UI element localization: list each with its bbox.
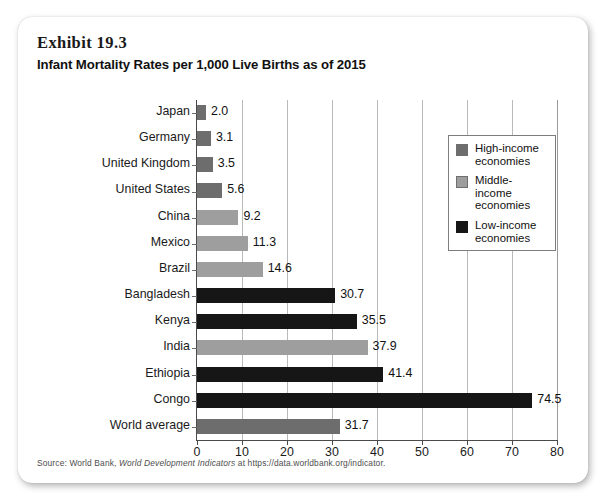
source-publication: World Development Indicators <box>119 458 235 468</box>
category-label: United States <box>22 181 190 198</box>
exhibit-card: Exhibit 19.3 Infant Mortality Rates per … <box>18 17 588 483</box>
bar-row: Brazil14.6 <box>197 257 557 283</box>
bar <box>197 236 248 251</box>
bar-row: Ethiopia41.4 <box>197 362 557 388</box>
legend-item-low-income: Low-income economies <box>456 219 548 244</box>
bar-chart: Japan2.0Germany3.1United Kingdom3.5Unite… <box>18 17 588 483</box>
source-note: Source: World Bank, World Development In… <box>37 458 385 468</box>
bar-value-label: 3.1 <box>216 129 233 146</box>
category-label: Ethiopia <box>22 365 190 382</box>
bar-row: Bangladesh30.7 <box>197 283 557 309</box>
bar <box>197 210 238 225</box>
source-suffix: at https://data.worldbank.org/indicator. <box>235 458 385 468</box>
legend-swatch-middle-income-icon <box>456 176 468 188</box>
category-label: Germany <box>22 129 190 146</box>
bar <box>197 157 213 172</box>
category-label: India <box>22 338 190 355</box>
x-tick-label: 30 <box>325 445 339 459</box>
x-tick-label: 80 <box>550 445 564 459</box>
x-tick-label: 70 <box>505 445 519 459</box>
legend-swatch-low-income-icon <box>456 221 468 233</box>
bar-value-label: 3.5 <box>218 155 235 172</box>
bar <box>197 393 532 408</box>
category-label: Congo <box>22 391 190 408</box>
bar-value-label: 11.3 <box>253 234 276 251</box>
legend-label-low-income: Low-income economies <box>475 219 548 244</box>
bar-value-label: 37.9 <box>373 338 397 355</box>
bar <box>197 340 368 355</box>
bar <box>197 262 263 277</box>
x-tick-label: 50 <box>415 445 429 459</box>
category-label: Kenya <box>22 312 190 329</box>
category-label: Mexico <box>22 234 190 251</box>
category-label: Japan <box>22 103 190 120</box>
x-tick-label: 10 <box>235 445 249 459</box>
bar <box>197 419 340 434</box>
bar-row: World average31.7 <box>197 414 557 440</box>
bar-value-label: 30.7 <box>340 286 364 303</box>
bar <box>197 314 357 329</box>
x-tick-label: 40 <box>370 445 384 459</box>
bar-value-label: 35.5 <box>362 312 386 329</box>
category-label: World average <box>22 417 190 434</box>
legend-label-middle-income: Middle-income economies <box>475 174 548 212</box>
category-label: Bangladesh <box>22 286 190 303</box>
chart-legend: High-income economies Middle-income econ… <box>448 135 556 251</box>
bar <box>197 183 222 198</box>
x-tick-label: 20 <box>280 445 294 459</box>
exhibit-figure: Exhibit 19.3 Infant Mortality Rates per … <box>0 0 610 497</box>
legend-label-high-income: High-income economies <box>475 142 548 167</box>
legend-swatch-high-income-icon <box>456 144 468 156</box>
bar-row: Kenya35.5 <box>197 309 557 335</box>
bar-row: Japan2.0 <box>197 100 557 126</box>
x-tick-label: 0 <box>194 445 201 459</box>
bar <box>197 105 206 120</box>
bar-value-label: 41.4 <box>388 365 412 382</box>
bar-value-label: 74.5 <box>537 391 561 408</box>
legend-item-high-income: High-income economies <box>456 142 548 167</box>
bar-row: India37.9 <box>197 335 557 361</box>
category-label: China <box>22 208 190 225</box>
bar-value-label: 5.6 <box>227 181 244 198</box>
category-label: United Kingdom <box>22 155 190 172</box>
bar <box>197 367 383 382</box>
category-label: Brazil <box>22 260 190 277</box>
source-prefix: Source: World Bank, <box>37 458 119 468</box>
bar-value-label: 31.7 <box>345 417 369 434</box>
bar-row: Congo74.5 <box>197 388 557 414</box>
x-tick-label: 60 <box>460 445 474 459</box>
gridline <box>557 100 558 440</box>
bar-value-label: 2.0 <box>211 103 228 120</box>
bar-value-label: 9.2 <box>243 208 260 225</box>
bar-value-label: 14.6 <box>268 260 292 277</box>
bar <box>197 288 335 303</box>
legend-item-middle-income: Middle-income economies <box>456 174 548 212</box>
bar <box>197 131 211 146</box>
